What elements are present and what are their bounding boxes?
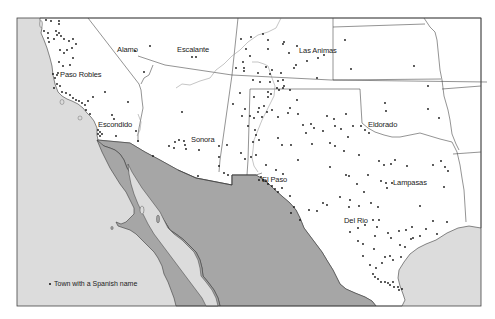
town-dot-icon (49, 283, 51, 285)
label-lampasas: Lampasas (393, 179, 427, 187)
label-eldorado: Eldorado (368, 121, 397, 129)
map-legend: Town with a Spanish name (49, 280, 137, 287)
island (78, 116, 82, 120)
island (111, 226, 113, 229)
island (140, 206, 144, 214)
label-alamo: Alamo (117, 46, 138, 54)
label-sonora: Sonora (191, 136, 215, 144)
label-escalante: Escalante (177, 46, 209, 54)
label-el-paso: El Paso (262, 176, 287, 184)
label-paso-robles: Paso Robles (60, 71, 101, 79)
label-las-animas: Las Animas (299, 47, 337, 55)
island (60, 100, 64, 105)
label-escondido: Escondido (98, 121, 132, 129)
legend-label: Town with a Spanish name (54, 280, 137, 287)
island (157, 215, 160, 223)
map-canvas (0, 0, 495, 319)
label-del-rio: Del Rio (344, 217, 368, 225)
island (40, 21, 43, 28)
